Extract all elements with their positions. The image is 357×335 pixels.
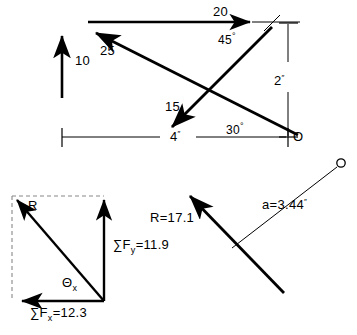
theta-symbol: Θ <box>62 275 72 290</box>
sum-fx-equals: = <box>53 305 61 320</box>
moment-arm-symbol: a <box>262 197 270 212</box>
dimension-label-4in: 4″ <box>170 130 181 143</box>
force-label-10: 10 <box>75 54 90 67</box>
sum-fy-symbol: ∑F <box>113 237 131 252</box>
resultant-equals: = <box>160 210 168 225</box>
force-label-15: 15 <box>165 100 180 113</box>
angle-label-45: 45° <box>218 32 236 46</box>
sum-fx-symbol: ∑F <box>30 305 48 320</box>
angle-45-value: 45 <box>218 33 232 47</box>
moment-arm-label: a=3.44″ <box>262 198 307 211</box>
force-arrow-25 <box>96 33 298 135</box>
angle-label-30: 30° <box>226 122 244 136</box>
sum-fx-label: ∑Fx=12.3 <box>30 306 87 323</box>
dimension-2in-value: 2 <box>274 73 282 88</box>
dimension-4in-unit: ″ <box>178 129 181 138</box>
point-O-marker <box>337 159 345 167</box>
theta-subscript: x <box>72 283 77 293</box>
resultant-symbol: R <box>150 210 160 225</box>
angle-30-degree-symbol: ° <box>240 121 244 131</box>
force-label-20: 20 <box>213 5 228 18</box>
angle-label-theta-x: Θx <box>62 276 77 293</box>
resultant-label-R: R <box>28 199 38 212</box>
point-label-O: O <box>293 130 303 143</box>
force-label-25: 25 <box>100 44 115 57</box>
dimension-4in-value: 4 <box>170 129 178 144</box>
sum-fy-value: 11.9 <box>144 237 170 252</box>
dimension-2in-unit: ″ <box>282 73 285 82</box>
dimension-label-2in: 2″ <box>274 74 285 87</box>
moment-arm-unit: ″ <box>304 197 307 206</box>
sum-fx-value: 12.3 <box>61 305 88 320</box>
statics-figure: 10 20 25 15 45° 30° 2″ 4″ O R Θx ∑Fy=11.… <box>0 0 357 335</box>
figure-vector-graphics <box>0 0 357 335</box>
angle-30-value: 30 <box>226 123 240 137</box>
sum-fy-equals: = <box>136 237 144 252</box>
resultant-vector-R <box>17 200 104 301</box>
angle-45-degree-symbol: ° <box>232 31 236 41</box>
resultant-magnitude-label: R=17.1 <box>150 211 194 224</box>
resultant-value: 17.1 <box>168 210 195 225</box>
sum-fy-label: ∑Fy=11.9 <box>113 238 169 255</box>
moment-arm-value: 3.44 <box>277 197 304 212</box>
